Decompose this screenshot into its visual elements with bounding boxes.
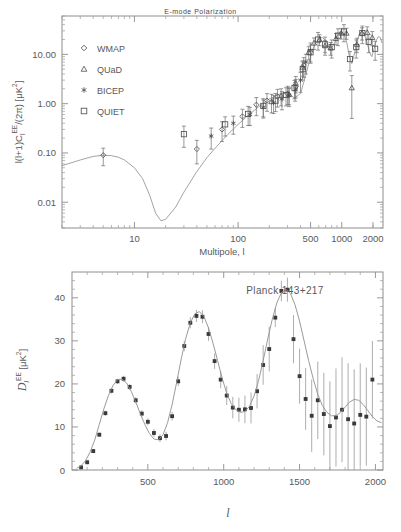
legend-item-quad[interactable]: QUaD — [81, 65, 122, 75]
y-tick-label: 1.00 — [38, 98, 57, 109]
marker-asterisk — [271, 100, 276, 105]
panel-bottom-xlabel: l — [226, 506, 230, 520]
y-tick-label: 30 — [54, 335, 65, 346]
marker-triangle — [81, 66, 87, 71]
legend-label: QUaD — [97, 65, 123, 75]
marker-square-filled — [213, 359, 217, 363]
marker-square-filled — [364, 415, 368, 419]
x-tick-label: 2000 — [365, 476, 386, 487]
x-tick-label: 1000 — [331, 233, 352, 244]
y-tick-label: 10.00 — [32, 49, 56, 60]
figure-root: E-mode Polarization 101005001000200010.0… — [0, 0, 401, 532]
ylabel-unit: μK — [13, 86, 24, 98]
ylabel-sub: l — [19, 133, 26, 135]
marker-square-filled — [358, 413, 362, 417]
legend-label: BICEP — [97, 86, 124, 96]
legend-item-bicep[interactable]: BICEP — [82, 86, 124, 96]
legend-label: QUIET — [97, 107, 125, 117]
marker-square-filled — [316, 398, 320, 402]
legend-item-quiet[interactable]: QUIET — [81, 107, 125, 117]
marker-asterisk — [82, 87, 87, 93]
panel-top-tick-labels: 101005001000200010.001.000.100.01 — [32, 49, 383, 244]
x-tick-label: 100 — [230, 233, 246, 244]
marker-square-filled — [273, 316, 277, 320]
marker-square-filled — [370, 378, 374, 382]
marker-asterisk — [231, 121, 236, 126]
x-tick-label: 1000 — [213, 476, 234, 487]
marker-square-filled — [146, 420, 150, 424]
y-tick-label: 0 — [60, 465, 65, 476]
marker-square-filled — [267, 347, 271, 351]
panel-bottom-frame — [72, 272, 383, 470]
panel-top-xlabel: Multipole, l — [199, 246, 244, 257]
series-quiet — [181, 25, 377, 148]
marker-square-filled — [91, 449, 95, 453]
legend-item-wmap[interactable]: WMAP — [81, 44, 125, 54]
marker-square-filled — [328, 424, 332, 428]
marker-square-filled — [352, 422, 356, 426]
ylabel-b-sub: l — [23, 380, 30, 382]
ylabel-post: ] — [13, 81, 24, 84]
marker-square-filled — [298, 374, 302, 378]
marker-square-filled — [97, 433, 101, 437]
svg-text:DlEE [μK2]: DlEE [μK2] — [15, 349, 30, 392]
data-points-bottom — [79, 278, 374, 470]
marker-square-filled — [346, 417, 350, 421]
y-tick-label: 20 — [54, 378, 65, 389]
y-tick-label: 0.01 — [38, 197, 57, 208]
ylabel-b-unit: μK — [17, 354, 28, 366]
series-quad — [269, 27, 375, 119]
planck-annotation: Planck 143+217 — [246, 285, 324, 296]
svg-text:l(l+1)ClEE/(2π) [μK2]: l(l+1)ClEE/(2π) [μK2] — [11, 81, 26, 164]
ylabel-script-d: D — [15, 382, 29, 392]
panel-bottom-ticks — [72, 272, 383, 470]
marker-square — [81, 108, 87, 114]
ylabel-mid: /(2π) [ — [13, 98, 24, 124]
marker-square-filled — [292, 337, 296, 341]
panel-bottom-svg: 500100015002000010203040 Planck 143+217 … — [0, 262, 401, 532]
marker-asterisk — [209, 133, 214, 138]
x-tick-label: 2000 — [362, 233, 383, 244]
legend-top: WMAPQUaDBICEPQUIET — [81, 44, 125, 117]
legend-label: WMAP — [97, 44, 125, 54]
marker-square-filled — [194, 314, 198, 318]
marker-square-filled — [152, 431, 156, 435]
panel-bottom-ylabel: DlEE [μK2] — [15, 349, 30, 392]
y-tick-label: 0.10 — [38, 147, 57, 158]
panel-top-ylabel: l(l+1)ClEE/(2π) [μK2] — [11, 81, 26, 164]
marker-square-filled — [310, 414, 314, 418]
y-tick-label: 40 — [54, 292, 65, 303]
panel-top-ee-compilation: 101005001000200010.001.000.100.01 Multip… — [0, 8, 401, 260]
panel-bottom-planck: 500100015002000010203040 Planck 143+217 … — [0, 262, 401, 532]
x-tick-label: 500 — [140, 476, 156, 487]
ylabel-pre: l(l+1)C — [13, 135, 24, 163]
ylabel-b-unit-close: ] — [17, 349, 28, 352]
marker-square-filled — [170, 414, 174, 418]
x-tick-label: 500 — [303, 233, 319, 244]
marker-square-filled — [304, 397, 308, 401]
marker-diamond — [81, 45, 87, 51]
x-tick-label: 1500 — [289, 476, 310, 487]
marker-square-filled — [322, 412, 326, 416]
data-points-top — [101, 25, 378, 166]
y-tick-label: 10 — [54, 421, 65, 432]
x-tick-label: 10 — [129, 233, 140, 244]
panel-top-svg: 101005001000200010.001.000.100.01 Multip… — [0, 8, 401, 260]
marker-square-filled — [164, 434, 168, 438]
marker-square-filled — [103, 411, 107, 415]
